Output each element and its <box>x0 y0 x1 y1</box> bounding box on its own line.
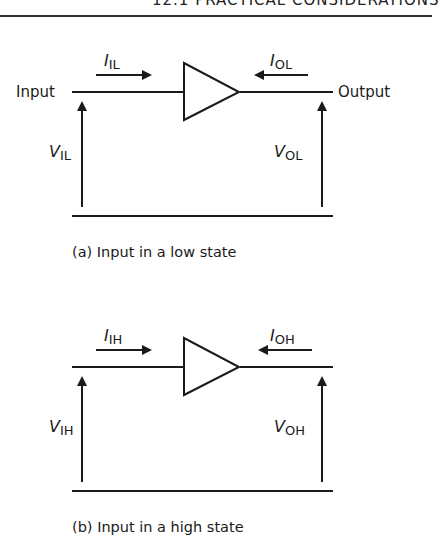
buffer-triangle-icon <box>184 338 239 395</box>
running-head: 12.1 PRACTICAL CONSIDERATIONS <box>152 0 439 9</box>
input-voltage-label: VIH <box>49 417 74 438</box>
caption-a: (a) Input in a low state <box>72 244 236 260</box>
output-current-label: IOH <box>270 326 295 347</box>
output-current-label: IOL <box>270 51 293 72</box>
buffer-diagram-low-state: Input Output IIL IOL VIL VOL <box>0 40 435 230</box>
input-voltage-label: VIL <box>49 142 72 163</box>
buffer-diagram-high-state: IIH IOH VIH VOH <box>0 315 435 505</box>
input-label: Input <box>16 83 55 101</box>
input-current-label: IIL <box>104 51 121 72</box>
output-voltage-label: VOH <box>274 417 305 438</box>
input-current-label: IIH <box>104 326 122 347</box>
header-rule <box>0 15 432 17</box>
caption-b: (b) Input in a high state <box>72 519 244 535</box>
buffer-triangle-icon <box>184 63 239 120</box>
output-voltage-label: VOL <box>274 142 303 163</box>
output-label: Output <box>338 83 390 101</box>
